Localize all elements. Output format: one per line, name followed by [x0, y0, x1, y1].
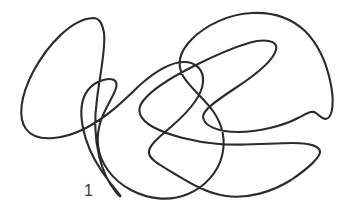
- crossing-label-1: 1: [84, 182, 93, 199]
- figure-background: [0, 0, 351, 219]
- knot-diagram-figure: 1: [0, 0, 351, 219]
- knot-diagram-canvas: 1: [0, 0, 351, 219]
